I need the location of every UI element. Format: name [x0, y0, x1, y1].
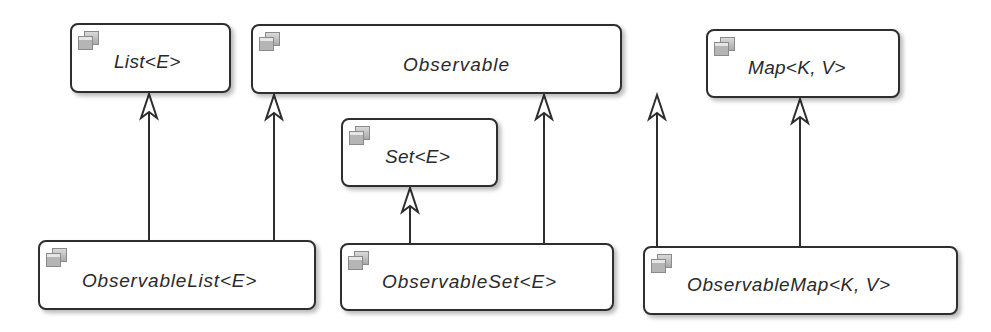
class-label: ObservableSet<E>: [382, 271, 557, 293]
interface-icon: [349, 126, 371, 146]
interface-icon: [348, 251, 370, 271]
edge-observablelist-to-list: [141, 94, 157, 240]
edge-observablelist-to-observable: [266, 95, 282, 240]
interface-icon: [46, 248, 68, 268]
edge-observablemap-to-map: [792, 99, 808, 246]
class-label: ObservableMap<K, V>: [687, 274, 891, 296]
interface-icon: [259, 32, 281, 52]
edge-observableset-to-observable: [536, 95, 552, 243]
class-observable-list[interactable]: ObservableList<E>: [38, 240, 316, 310]
class-map[interactable]: Map<K, V>: [706, 29, 900, 98]
class-label: Map<K, V>: [748, 57, 846, 79]
interface-icon: [651, 254, 673, 274]
interface-icon: [714, 37, 736, 57]
class-label: ObservableList<E>: [82, 270, 257, 292]
edge-observableset-to-set: [402, 188, 418, 243]
class-label: List<E>: [114, 51, 181, 73]
interface-icon: [78, 31, 100, 51]
class-observable[interactable]: Observable: [251, 24, 622, 94]
class-label: Observable: [403, 54, 510, 76]
class-set[interactable]: Set<E>: [341, 118, 498, 187]
edge-observablemap-to-observable: [649, 95, 665, 246]
class-observable-set[interactable]: ObservableSet<E>: [340, 243, 614, 311]
class-list[interactable]: List<E>: [70, 23, 231, 93]
class-observable-map[interactable]: ObservableMap<K, V>: [643, 246, 958, 315]
class-label: Set<E>: [385, 146, 450, 168]
